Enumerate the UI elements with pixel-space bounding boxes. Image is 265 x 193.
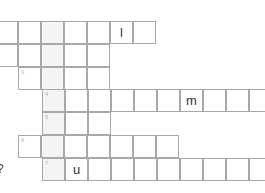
grid-cell[interactable]	[41, 67, 64, 90]
grid-cell[interactable]	[133, 21, 156, 44]
grid-cell[interactable]	[180, 158, 203, 181]
grid-cell[interactable]: l	[110, 21, 133, 44]
grid-cell[interactable]: 6	[18, 135, 41, 158]
grid-cell[interactable]	[226, 89, 249, 112]
grid-cell[interactable]	[134, 89, 157, 112]
grid-cell[interactable]	[249, 89, 265, 112]
grid-cell[interactable]	[156, 135, 179, 158]
grid-cell[interactable]	[249, 158, 265, 181]
grid-cell[interactable]	[111, 89, 134, 112]
grid-cell[interactable]	[18, 21, 41, 44]
grid-cell[interactable]	[133, 135, 156, 158]
grid-cell[interactable]	[41, 21, 64, 44]
grid-cell[interactable]	[203, 158, 226, 181]
grid-cell[interactable]: 7	[42, 158, 65, 181]
cell-letter: u	[66, 162, 87, 178]
grid-cell[interactable]: 3	[18, 67, 41, 90]
grid-cell[interactable]	[203, 89, 226, 112]
grid-cell[interactable]	[65, 112, 88, 135]
grid-cell[interactable]: 5	[42, 112, 65, 135]
grid-cell[interactable]	[87, 135, 110, 158]
grid-cell[interactable]	[110, 135, 133, 158]
grid-cell[interactable]	[111, 158, 134, 181]
grid-cell[interactable]	[0, 21, 18, 44]
grid-cell[interactable]	[88, 158, 111, 181]
cell-letter: l	[111, 25, 132, 41]
grid-cell[interactable]	[0, 44, 18, 67]
grid-cell[interactable]	[134, 158, 157, 181]
grid-cell[interactable]: u	[65, 158, 88, 181]
grid-cell[interactable]	[65, 89, 88, 112]
grid-cell[interactable]	[87, 44, 110, 67]
grid-cell[interactable]	[157, 158, 180, 181]
grid-cell[interactable]	[41, 135, 64, 158]
grid-cell[interactable]	[157, 89, 180, 112]
clue-number: 7	[45, 160, 48, 166]
grid-cell[interactable]	[41, 44, 64, 67]
grid-cell[interactable]	[64, 135, 87, 158]
clue-number: 4	[45, 91, 48, 97]
clue-number: 3	[21, 69, 24, 75]
grid-cell[interactable]	[87, 67, 110, 90]
grid-cell[interactable]	[64, 67, 87, 90]
cell-letter: m	[181, 93, 202, 109]
grid-cell[interactable]	[64, 21, 87, 44]
clue-number: 6	[21, 137, 24, 143]
grid-cell[interactable]: m	[180, 89, 203, 112]
grid-cell[interactable]	[226, 158, 249, 181]
grid-cell[interactable]	[87, 21, 110, 44]
grid-cell[interactable]	[88, 89, 111, 112]
grid-cell[interactable]	[64, 44, 87, 67]
grid-cell[interactable]	[88, 112, 111, 135]
grid-cell[interactable]: 4	[42, 89, 65, 112]
question-mark: ?	[0, 162, 4, 176]
clue-number: 5	[45, 114, 48, 120]
grid-cell[interactable]	[18, 44, 41, 67]
